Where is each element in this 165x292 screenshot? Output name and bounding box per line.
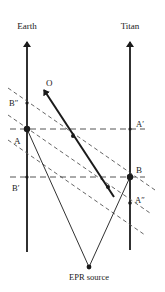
label-O: O bbox=[46, 78, 53, 88]
point-B-double-prime bbox=[25, 101, 28, 104]
label-earth: Earth bbox=[17, 21, 37, 31]
signal-line-to-A bbox=[27, 129, 89, 267]
label-A-double-prime: A″ bbox=[135, 195, 145, 205]
label-B-double-prime: B″ bbox=[9, 98, 19, 108]
label-titan: Titan bbox=[121, 21, 140, 31]
observer-worldline bbox=[44, 90, 114, 197]
point-B bbox=[127, 174, 133, 180]
point-A bbox=[24, 126, 30, 132]
label-B-prime: B′ bbox=[12, 183, 20, 193]
diagonal-dashed-upper bbox=[8, 88, 155, 190]
epr-spacetime-diagram: Earth Titan O B″ A B′ A′ B A″ EPR source bbox=[0, 0, 165, 292]
label-A: A bbox=[14, 136, 21, 146]
point-epr-source bbox=[87, 265, 92, 270]
label-epr-source: EPR source bbox=[69, 272, 109, 282]
label-A-prime: A′ bbox=[136, 119, 144, 129]
observer-dot-1 bbox=[71, 134, 75, 138]
diagonal-dashed-lower bbox=[8, 140, 145, 235]
point-B-prime bbox=[25, 175, 28, 178]
label-B: B bbox=[136, 165, 142, 175]
point-A-double-prime bbox=[128, 201, 132, 205]
point-A-prime bbox=[128, 127, 131, 130]
observer-dot-2 bbox=[106, 185, 110, 189]
